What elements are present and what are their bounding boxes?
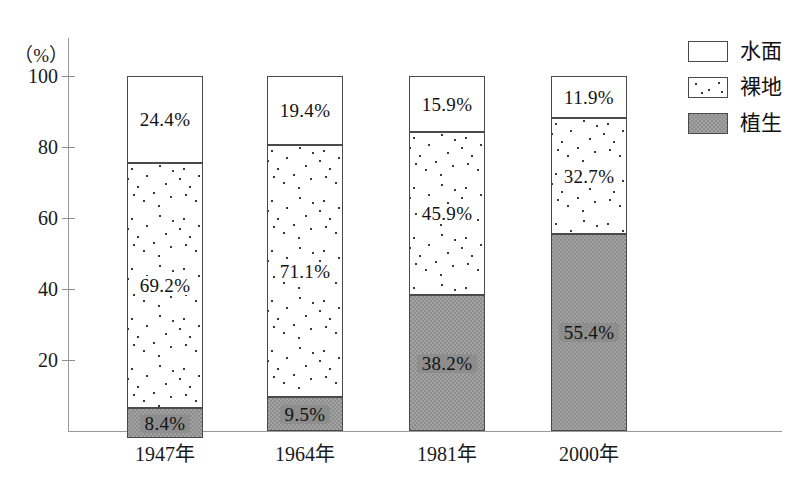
legend-swatch-icon [688,77,728,98]
stacked-bar: 24.4%69.2%8.4% [127,76,203,431]
y-axis-unit-label: （%） [10,46,68,65]
bar-segment-water: 19.4% [267,76,343,145]
x-axis-category-label: 1964年 [235,443,375,465]
bar-segment-value-label: 11.9% [562,88,616,107]
y-axis-tick-label: 80 [6,137,58,157]
x-axis-category-label: 2000年 [519,443,659,465]
legend-item: 裸地 [688,72,792,102]
bar-segment-value-label: 55.4% [562,323,617,342]
stacked-bar: 11.9%32.7%55.4% [551,76,627,431]
legend-swatch-icon [688,113,728,134]
stacked-bar: 15.9%45.9%38.2% [409,76,485,431]
y-axis-tick [62,76,75,77]
bar-segment-bare: 32.7% [551,118,627,234]
bar-segment-bare: 45.9% [409,132,485,295]
legend-label: 植生 [740,113,782,134]
bar-segment-veg: 55.4% [551,234,627,431]
bar-segment-value-label: 71.1% [278,262,333,281]
bar-segment-water: 24.4% [127,76,203,163]
bar-segment-value-label: 24.4% [138,110,193,129]
bar-segment-veg: 8.4% [127,408,203,438]
x-axis-category-label: 1947年 [95,443,235,465]
y-axis-tick-label: 60 [6,208,58,228]
bar-segment-water: 11.9% [551,76,627,118]
y-axis-line [68,38,69,432]
bar-segment-value-label: 8.4% [143,414,188,433]
bar-segment-bare: 71.1% [267,145,343,397]
stacked-bar: 19.4%71.1%9.5% [267,76,343,431]
legend-item: 植生 [688,108,792,138]
bar-segment-value-label: 38.2% [420,354,475,373]
y-axis-tick-label: 20 [6,350,58,370]
bar-segment-water: 15.9% [409,76,485,132]
chart-legend: 水面裸地植生 [688,36,792,144]
bar-segment-bare: 69.2% [127,163,203,409]
stacked-bar-chart: （%） 10080604020 24.4%69.2%8.4%19.4%71.1%… [0,0,796,477]
y-axis-tick [62,289,75,290]
y-axis-tick-label: 100 [6,66,58,86]
y-axis-tick [62,147,75,148]
bar-segment-value-label: 15.9% [420,95,475,114]
legend-label: 水面 [740,41,782,62]
bar-segment-value-label: 69.2% [138,276,193,295]
bar-segment-value-label: 32.7% [562,167,617,186]
bar-segment-veg: 38.2% [409,295,485,431]
x-axis-category-label: 1981年 [377,443,517,465]
bar-segment-value-label: 9.5% [283,405,328,424]
y-axis-tick [62,218,75,219]
legend-label: 裸地 [740,77,782,98]
legend-item: 水面 [688,36,792,66]
y-axis-tick [62,360,75,361]
bar-segment-value-label: 45.9% [420,204,475,223]
legend-swatch-icon [688,41,728,62]
bar-segment-veg: 9.5% [267,397,343,431]
y-axis-tick-label: 40 [6,279,58,299]
bar-segment-value-label: 19.4% [278,101,333,120]
